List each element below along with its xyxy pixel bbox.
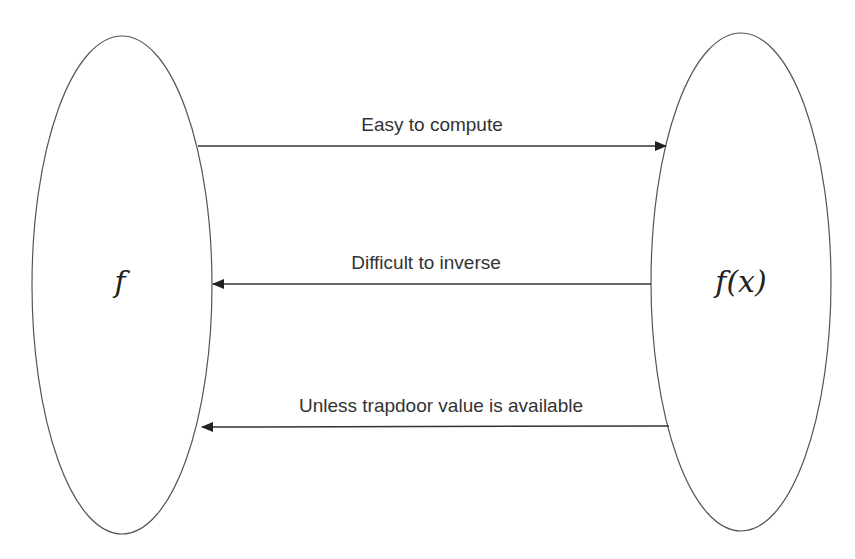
arrow-label-trapdoor: Unless trapdoor value is available [299, 395, 583, 416]
arrow-label-easy: Easy to compute [361, 114, 503, 135]
arrow-label-difficult: Difficult to inverse [351, 252, 501, 273]
right-node-label: f(x) [713, 264, 766, 299]
trapdoor-function-diagram: Easy to compute Difficult to inverse Unl… [0, 0, 855, 559]
arrow-trapdoor [202, 426, 669, 427]
left-node-label: f [112, 264, 130, 299]
